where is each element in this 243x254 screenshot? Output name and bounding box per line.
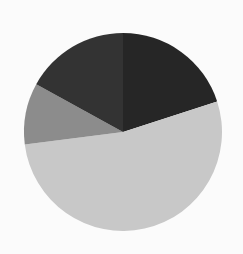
pie-chart [0,0,243,254]
